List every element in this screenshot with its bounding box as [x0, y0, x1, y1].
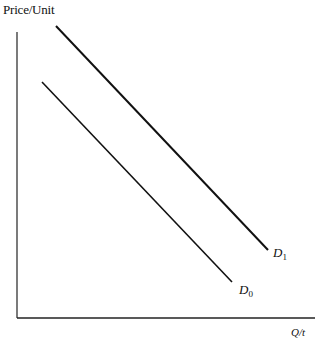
curve-label-d0: D0: [239, 282, 253, 299]
curve-label-d0-main: D: [239, 282, 248, 297]
curve-label-d0-sub: 0: [248, 289, 253, 299]
curve-label-d1: D1: [273, 245, 287, 262]
demand-curve-d1: [56, 26, 268, 250]
y-axis-label: Price/Unit: [3, 2, 54, 18]
curve-label-d1-main: D: [273, 245, 282, 260]
chart-canvas: [0, 0, 327, 346]
curve-label-d1-sub: 1: [282, 252, 287, 262]
x-axis-label: Q/t: [291, 326, 305, 338]
